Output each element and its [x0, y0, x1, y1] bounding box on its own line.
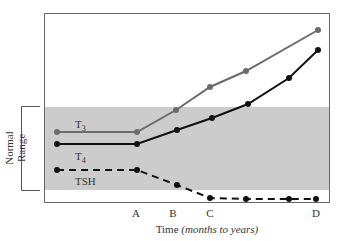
y-axis-label: Normal Range — [3, 131, 27, 165]
thyroid-hormone-chart: Normal Range — [0, 0, 337, 241]
x-tick-c: C — [206, 207, 213, 219]
x-tick-b: B — [169, 207, 176, 219]
x-tick-a: A — [132, 207, 140, 219]
x-axis-title: Time (months to years) — [156, 223, 259, 236]
tsh-label: TSH — [75, 175, 96, 187]
svg-text:Range: Range — [15, 134, 27, 162]
x-tick-d: D — [312, 207, 320, 219]
svg-text:Normal: Normal — [3, 131, 15, 165]
